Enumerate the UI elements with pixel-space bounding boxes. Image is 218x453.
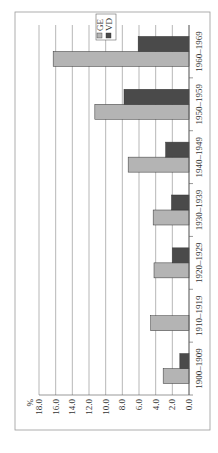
bar-vd bbox=[172, 248, 189, 263]
category-label: 1930–1939 bbox=[194, 189, 204, 230]
y-tick-label: 6.0 bbox=[134, 399, 144, 411]
y-tick-label: 10.0 bbox=[101, 399, 111, 415]
category-label: 1910–1919 bbox=[194, 295, 204, 336]
bar-ge bbox=[53, 51, 189, 66]
category-label: 1940–1949 bbox=[194, 136, 204, 177]
legend-label-vd: VD bbox=[104, 18, 114, 31]
bar-vd bbox=[172, 195, 190, 210]
y-tick-label: 8.0 bbox=[117, 399, 127, 411]
bar-ge bbox=[151, 316, 189, 331]
bar-ge bbox=[95, 104, 189, 119]
category-label: 1950–1959 bbox=[194, 84, 204, 125]
y-tick-label: 2.0 bbox=[167, 399, 177, 411]
y-tick-label: 14.0 bbox=[67, 399, 77, 415]
category-label: 1920–1929 bbox=[194, 242, 204, 283]
y-tick-label: 0.0 bbox=[184, 399, 194, 411]
bar-ge bbox=[154, 263, 189, 278]
category-label: 1960–1969 bbox=[194, 31, 204, 72]
bar-vd bbox=[180, 354, 189, 369]
bar-ge bbox=[153, 210, 189, 225]
y-tick-label: 12.0 bbox=[84, 399, 94, 415]
y-tick-label: 4.0 bbox=[151, 399, 161, 411]
y-tick-label: 16.0 bbox=[51, 399, 61, 415]
bar-vd bbox=[138, 36, 189, 51]
legend: GEVD bbox=[95, 14, 116, 40]
legend-swatch-vd bbox=[106, 33, 111, 38]
bar-vd bbox=[124, 89, 189, 104]
bar-vd bbox=[166, 142, 189, 157]
legend-swatch-ge bbox=[97, 33, 102, 38]
bar-ge bbox=[163, 369, 189, 384]
bar-ge bbox=[128, 157, 189, 172]
y-tick-label: 18.0 bbox=[34, 399, 44, 415]
category-label: 1900–1909 bbox=[194, 348, 204, 389]
y-axis-label: % bbox=[25, 399, 35, 407]
bar-chart: 0.02.04.06.08.010.012.014.016.018.0%1900… bbox=[0, 0, 218, 453]
